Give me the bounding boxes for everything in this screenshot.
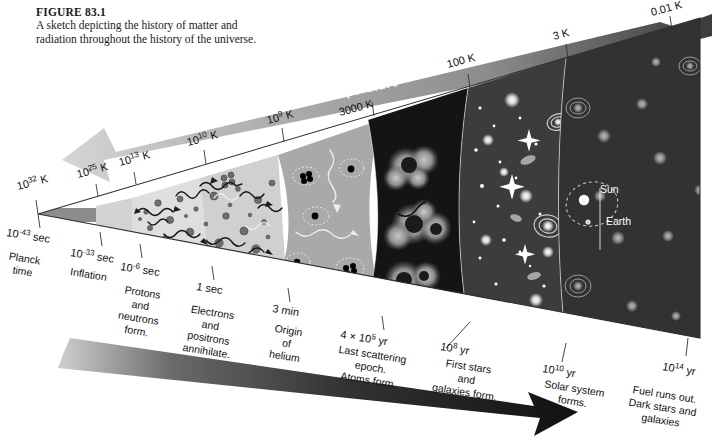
event-label: Plancktime xyxy=(6,250,42,280)
event-label: Inflation xyxy=(70,265,108,283)
svg-text:Inflation: Inflation xyxy=(70,265,108,283)
figure-caption-text: A sketch depicting the history of matter… xyxy=(36,19,276,46)
era-nucleosynthesis xyxy=(278,120,380,300)
temperature-label: 1010 K xyxy=(185,127,219,148)
time-label: 10-6 sec xyxy=(120,259,162,278)
temperature-label: 1013 K xyxy=(117,147,151,168)
earth-marker xyxy=(585,219,590,224)
event-label: Electronsand positronsannihilate. xyxy=(182,302,237,360)
time-label: 10-43 sec xyxy=(6,225,52,245)
figure-caption-block: FIGURE 83.1 A sketch depicting the histo… xyxy=(36,6,276,46)
universe-history-diagram: Temperature Time xyxy=(0,0,712,448)
temperature-label: 1032 K xyxy=(15,171,49,192)
time-label: 1010 yr xyxy=(542,361,577,379)
event-label: Originof helium xyxy=(268,322,305,364)
time-axis-arrow: Time xyxy=(58,338,578,436)
svg-text:form.: form. xyxy=(124,323,150,339)
svg-text:of: of xyxy=(281,336,292,349)
label-earth: Earth xyxy=(606,215,631,227)
event-label: Fuel runs out.Dark stars and galaxies xyxy=(626,383,700,431)
time-label: 108 yr xyxy=(440,339,471,356)
time-label: 1 sec xyxy=(196,280,224,296)
svg-text:time: time xyxy=(12,263,34,278)
temperature-label: 3 K xyxy=(551,26,571,42)
figure-number: FIGURE 83.1 xyxy=(36,6,276,18)
time-label: 1014 yr xyxy=(662,359,697,377)
time-label: 10-33 sec xyxy=(70,245,116,265)
temperature-label: 0.01 K xyxy=(649,0,683,18)
label-sun: Sun xyxy=(600,183,619,195)
time-label: 3 min xyxy=(272,302,300,318)
svg-text:Origin: Origin xyxy=(274,322,304,338)
event-label: Protonsand neutronsform. xyxy=(115,283,163,340)
cloud-blob xyxy=(381,260,441,305)
sun-marker xyxy=(579,195,589,205)
